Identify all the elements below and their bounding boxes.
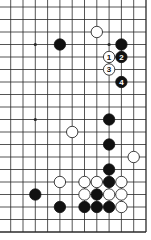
white-stone [91,176,102,187]
star-point [34,118,37,121]
black-stone [54,39,65,50]
move-number: 3 [107,65,112,74]
black-stone [79,201,90,212]
white-stone [91,26,102,37]
black-stone [103,176,114,187]
move-number: 2 [119,53,124,62]
white-stone [116,176,127,187]
white-stone [54,176,65,187]
white-stone [116,201,127,212]
white-stone [79,189,90,200]
black-stone-2: 2 [116,51,127,62]
black-stone [91,189,102,200]
white-stone [103,189,114,200]
move-number: 4 [119,78,124,87]
white-stone [67,126,78,137]
star-point [34,43,37,46]
black-stone [30,189,41,200]
white-stone [116,189,127,200]
black-stone [103,164,114,175]
go-board: 1234 [0,0,151,240]
white-stone [128,151,139,162]
white-stone [79,176,90,187]
black-stone [103,114,114,125]
white-stone-3: 3 [103,64,114,75]
black-stone [103,139,114,150]
white-stone-1: 1 [103,51,114,62]
move-number: 1 [107,53,112,62]
black-stone [116,39,127,50]
black-stone-4: 4 [116,76,127,87]
black-stone [103,201,114,212]
black-stone [54,201,65,212]
black-stone [91,201,102,212]
star-point [108,43,111,46]
